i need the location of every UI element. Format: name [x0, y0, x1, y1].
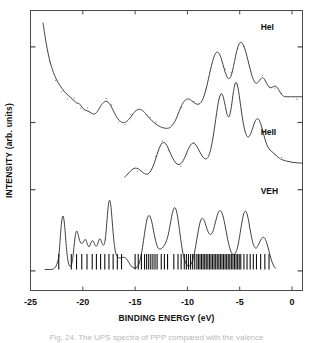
data-point — [74, 97, 75, 98]
spectra-plot: -25-20-15-10-50BINDING ENERGY (eV)INTENS… — [0, 0, 313, 343]
data-point — [243, 46, 244, 47]
curve-HeI — [43, 23, 302, 128]
data-point — [106, 98, 107, 99]
y-axis-label: INTENSITY (arb. units) — [4, 103, 14, 198]
data-point — [181, 107, 182, 108]
data-point — [67, 98, 68, 99]
data-point — [80, 108, 81, 109]
x-axis-label: BINDING ENERGY (eV) — [118, 313, 214, 323]
data-point — [281, 93, 282, 94]
x-tick-label: 0 — [290, 297, 295, 307]
data-point — [193, 101, 194, 102]
data-point — [230, 72, 231, 73]
data-point — [262, 75, 263, 76]
data-point — [237, 48, 238, 49]
x-tick-label: -20 — [76, 297, 89, 307]
plot-frame — [31, 11, 303, 291]
data-point — [296, 99, 297, 100]
figure-container: -25-20-15-10-50BINDING ENERGY (eV)INTENS… — [0, 0, 313, 343]
data-point — [231, 104, 232, 105]
x-tick-label: -25 — [24, 297, 37, 307]
x-tick-label: -10 — [181, 297, 194, 307]
curve-label-VEH: VEH — [261, 186, 278, 196]
data-point — [111, 104, 112, 105]
curve-label-HeI: HeI — [261, 22, 274, 32]
data-point — [237, 84, 238, 85]
data-point — [156, 122, 157, 123]
data-point — [150, 117, 151, 118]
stick-spectrum — [59, 254, 269, 269]
series-HeII: HeII — [125, 82, 303, 177]
x-tick-label: -15 — [129, 297, 142, 307]
data-point — [118, 121, 119, 122]
curve-label-HeII: HeII — [261, 127, 277, 137]
data-point — [275, 154, 276, 155]
x-axis: -25-20-15-10-50 — [24, 11, 295, 307]
data-point — [61, 91, 62, 92]
y-axis — [31, 47, 303, 271]
data-point — [219, 98, 220, 99]
data-point — [162, 140, 163, 141]
x-tick-label: -5 — [236, 297, 244, 307]
data-point — [155, 156, 156, 157]
data-point — [49, 62, 50, 63]
data-point — [274, 87, 275, 88]
data-point — [224, 68, 225, 69]
data-point — [137, 171, 138, 172]
data-point — [130, 114, 131, 115]
data-point — [205, 88, 206, 89]
data-point — [281, 157, 282, 158]
data-point — [186, 153, 187, 154]
data-point — [125, 124, 126, 125]
data-point — [225, 108, 226, 109]
series-HeI: HeI — [43, 22, 302, 128]
data-point — [55, 80, 56, 81]
figure-caption: Fig. 24. The UPS spectra of PPP compared… — [0, 332, 313, 343]
data-point — [194, 142, 195, 143]
data-point — [168, 150, 169, 151]
data-point — [87, 107, 88, 108]
data-point — [180, 166, 181, 167]
